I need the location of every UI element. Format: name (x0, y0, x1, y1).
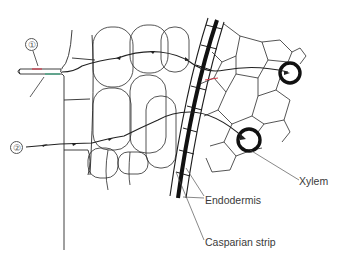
cortex-cells (88, 25, 189, 190)
endodermis-label: Endodermis (205, 195, 261, 206)
casparian-leader-line (176, 172, 204, 240)
root-water-pathway-diagram: ① ② Xylem Endodermis Casparian strip (0, 0, 345, 256)
pathway-marker-2: ② (10, 141, 23, 154)
pathway-marker-1: ① (25, 38, 38, 51)
pathway-1-arrow (62, 52, 288, 72)
epidermis-cells (18, 30, 95, 250)
casparian-strip-label: Casparian strip (205, 237, 276, 248)
diagram-canvas (0, 0, 345, 256)
endodermis-band (170, 18, 224, 198)
pathway-2-arrow (26, 112, 244, 147)
xylem-leader-line (250, 150, 299, 180)
xylem-label: Xylem (299, 176, 328, 187)
xylem-vessel-lower (238, 129, 260, 151)
